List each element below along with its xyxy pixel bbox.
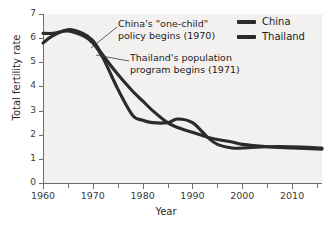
- legend-swatch-china: [237, 20, 256, 24]
- legend-label-thailand: Thailand: [262, 31, 305, 42]
- annotation-china-policy: China's "one-child" policy begins (1970): [118, 18, 215, 41]
- legend-swatch-thailand: [237, 35, 256, 39]
- annotation-thailand-line1: Thailand's population: [130, 52, 240, 64]
- chart-legend: China Thailand: [237, 16, 305, 46]
- x-axis-title: Year: [0, 206, 332, 217]
- annotation-china-line1: China's "one-child": [118, 18, 215, 30]
- legend-label-china: China: [262, 16, 291, 27]
- annotation-china-line2: policy begins (1970): [118, 30, 215, 42]
- legend-item-china: China: [237, 16, 305, 27]
- y-axis-title: Total fertility rate: [11, 18, 22, 138]
- series-line-thailand: [43, 30, 322, 150]
- annotation-thailand-program: Thailand's population program begins (19…: [130, 52, 240, 75]
- fertility-rate-chart: 01234567 196019701980199020002010 China'…: [0, 0, 332, 228]
- legend-item-thailand: Thailand: [237, 31, 305, 42]
- annotation-thailand-line2: program begins (1971): [130, 64, 240, 76]
- leader-line-thailand: [96, 55, 129, 61]
- leader-line-china: [91, 27, 117, 48]
